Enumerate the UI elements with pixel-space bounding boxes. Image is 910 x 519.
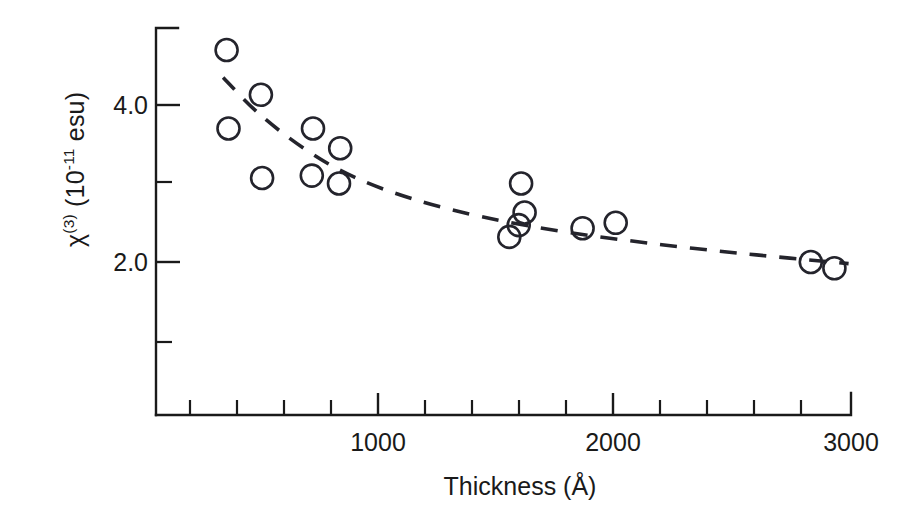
data-point [605, 212, 627, 234]
data-point [216, 39, 238, 61]
data-point [514, 202, 536, 224]
y-tick-label-2: 2.0 [113, 248, 148, 276]
data-point [301, 165, 323, 187]
y-axis-title-units: esu) [61, 92, 89, 149]
data-point [251, 167, 273, 189]
y-tick-group [156, 105, 180, 342]
chart-figure: 4.0 2.0 1000 2000 3000 χ(3) (10-11 esu) … [0, 0, 910, 519]
x-tick-group [190, 393, 801, 415]
x-tick-label-3000: 3000 [823, 428, 879, 456]
y-axis-title-chi: χ [61, 234, 89, 247]
y-axis-title-order: (3) [60, 214, 77, 234]
scatter-plot-canvas: 4.0 2.0 1000 2000 3000 [0, 0, 910, 519]
data-point-group [216, 39, 846, 279]
axis-group [156, 28, 851, 415]
data-point [510, 173, 532, 195]
data-point [329, 137, 351, 159]
x-tick-label-1000: 1000 [350, 428, 406, 456]
y-axis-title-exponent: -11 [60, 148, 77, 170]
y-tick-label-4: 4.0 [113, 91, 148, 119]
data-point [218, 118, 240, 140]
trend-curve-dashed [223, 78, 849, 264]
data-point [250, 84, 272, 106]
y-axis-title: χ(3) (10-11 esu) [61, 39, 90, 299]
data-point [302, 118, 324, 140]
y-axis-title-open: (10 [61, 170, 89, 214]
data-point [328, 173, 350, 195]
x-axis-line [156, 393, 851, 415]
x-axis-title: Thickness (Å) [370, 472, 670, 501]
y-axis-line [156, 28, 178, 415]
x-tick-label-2000: 2000 [585, 428, 641, 456]
data-point [823, 257, 845, 279]
